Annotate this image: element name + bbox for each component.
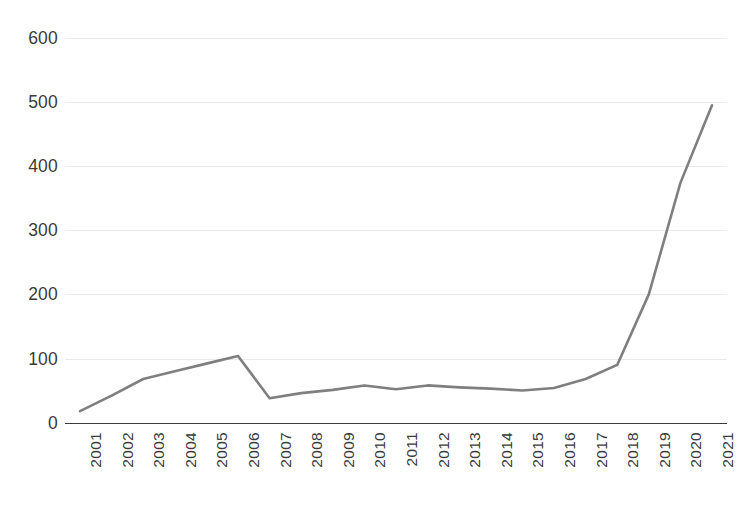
x-tick-label-2013: 2013 (466, 432, 484, 468)
x-tick-label-2018: 2018 (624, 432, 642, 468)
line-chart: 0100200300400500600 20012002200320042005… (0, 0, 745, 507)
x-tick-label-2015: 2015 (529, 432, 547, 468)
x-tick-label-2014: 2014 (498, 432, 516, 468)
x-tick-label-2017: 2017 (593, 432, 611, 468)
x-tick-label-2012: 2012 (435, 432, 453, 468)
x-tick-label-2011: 2011 (403, 432, 421, 467)
x-tick-label-2021: 2021 (719, 432, 737, 468)
x-tick-label-2003: 2003 (150, 432, 168, 468)
x-tick-label-2006: 2006 (245, 432, 263, 468)
x-tick-label-2016: 2016 (561, 432, 579, 468)
x-tick-label-2009: 2009 (340, 432, 358, 468)
x-tick-label-2002: 2002 (119, 432, 137, 468)
x-tick-label-2008: 2008 (308, 432, 326, 468)
x-tick-label-2004: 2004 (182, 432, 200, 468)
x-tick-label-2005: 2005 (213, 432, 231, 468)
series-line-1 (80, 105, 712, 411)
x-tick-label-2019: 2019 (656, 432, 674, 468)
x-tick-label-2010: 2010 (371, 432, 389, 468)
x-axis-tick-labels: 2001200220032004200520062007200820092010… (0, 432, 745, 507)
x-tick-label-2007: 2007 (277, 432, 295, 468)
x-tick-label-2020: 2020 (687, 432, 705, 468)
x-tick-label-2001: 2001 (87, 432, 105, 468)
